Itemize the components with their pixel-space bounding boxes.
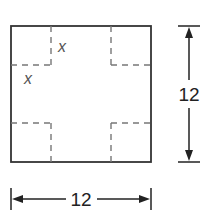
arrow-up-icon (185, 27, 193, 38)
width-label: 12 (70, 189, 91, 210)
arrow-left-icon (12, 195, 23, 203)
square-outline (11, 26, 151, 162)
arrow-right-icon (139, 195, 150, 203)
corner-cut-lines (11, 26, 151, 162)
x-label-top: x (57, 38, 67, 55)
arrow-down-icon (185, 150, 193, 161)
height-label: 12 (178, 84, 199, 105)
x-label-left: x (23, 70, 33, 87)
cut-corners-diagram: x x 12 12 (0, 0, 208, 211)
